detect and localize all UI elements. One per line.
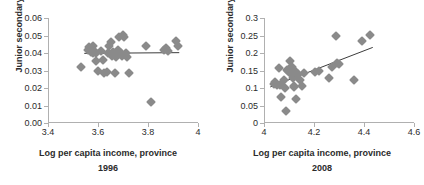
x-tick-label-2008: 4	[261, 127, 266, 137]
data-point	[76, 62, 86, 72]
x-tick-label-2008: 4.4	[358, 127, 371, 137]
y-tick-mark-2008	[260, 53, 264, 54]
data-point	[324, 73, 334, 83]
x-tick-label-1996: 3.6	[92, 127, 105, 137]
data-point	[274, 63, 284, 73]
y-tick-label-1996: 0.03	[24, 66, 42, 76]
plot-area-2008: 00.050.10.150.20.250.344.24.44.6	[264, 18, 414, 123]
y-tick-label-2008: 0.05	[240, 101, 258, 111]
x-axis-line-2008	[264, 122, 414, 123]
y-tick-mark-2008	[260, 106, 264, 107]
data-point	[331, 31, 341, 41]
y-tick-label-2008: 0	[253, 118, 258, 128]
y-tick-mark-2008	[260, 71, 264, 72]
data-point	[110, 68, 120, 78]
y-tick-mark-1996	[44, 36, 48, 37]
data-point	[365, 30, 375, 40]
plot-area-1996: 0.000.010.020.030.040.050.063.43.63.84	[48, 18, 198, 123]
x-axis-line-1996	[48, 122, 198, 123]
y-tick-mark-1996	[44, 106, 48, 107]
x-tick-label-2008: 4.2	[308, 127, 321, 137]
y-tick-label-2008: 0.15	[240, 66, 258, 76]
x-tick-label-1996: 3.8	[142, 127, 155, 137]
data-point	[281, 106, 291, 116]
y-tick-label-2008: 0.25	[240, 31, 258, 41]
x-axis-title-1996: Log per capita income, province	[2, 148, 214, 158]
y-tick-label-1996: 0.00	[24, 118, 42, 128]
y-tick-label-2008: 0.2	[245, 48, 258, 58]
y-tick-label-1996: 0.05	[24, 31, 42, 41]
y-axis-line-1996	[48, 18, 49, 123]
data-point	[146, 97, 156, 107]
y-tick-label-2008: 0.1	[245, 83, 258, 93]
data-point	[124, 68, 134, 78]
data-point	[276, 92, 286, 102]
data-point	[357, 36, 367, 46]
x-tick-label-2008: 4.6	[408, 127, 421, 137]
y-axis-line-2008	[264, 18, 265, 123]
y-tick-label-1996: 0.04	[24, 48, 42, 58]
y-tick-mark-2008	[260, 88, 264, 89]
y-tick-mark-1996	[44, 88, 48, 89]
x-axis-title-2008: Log per capita income, province	[216, 148, 424, 158]
data-point	[141, 41, 151, 51]
x-tick-label-1996: 3.4	[42, 127, 55, 137]
y-tick-label-2008: 0.3	[245, 13, 258, 23]
data-point	[291, 94, 301, 104]
y-tick-mark-2008	[260, 18, 264, 19]
y-tick-label-1996: 0.02	[24, 83, 42, 93]
panel-caption-1996: 1996	[2, 163, 214, 173]
y-axis-title-1996: Junior secondary	[14, 0, 24, 80]
data-point	[349, 75, 359, 85]
panel-caption-2008: 2008	[216, 163, 424, 173]
y-tick-label-1996: 0.06	[24, 13, 42, 23]
scatter-plot-figure: Junior secondary 0.000.010.020.030.040.0…	[0, 0, 424, 185]
y-tick-mark-2008	[260, 36, 264, 37]
chart-panel-1996: Junior secondary 0.000.010.020.030.040.0…	[0, 0, 212, 185]
x-tick-label-1996: 4	[195, 127, 200, 137]
y-tick-mark-1996	[44, 53, 48, 54]
y-tick-mark-1996	[44, 71, 48, 72]
y-axis-title-2008: Junior secondary	[225, 0, 235, 80]
chart-panel-2008: Junior secondary 00.050.10.150.20.250.34…	[212, 0, 424, 185]
y-tick-label-1996: 0.01	[24, 101, 42, 111]
y-tick-mark-1996	[44, 18, 48, 19]
